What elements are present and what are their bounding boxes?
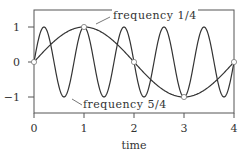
x-tick-label: 3 (181, 122, 188, 135)
x-tick-label: 4 (231, 122, 238, 135)
y-tick-label: 0 (13, 56, 20, 69)
sample-points (31, 24, 236, 99)
chart: 1 0 −1 0 1 2 3 4 time frequency 1/4 freq… (0, 0, 245, 155)
annotation-pointer (96, 17, 110, 24)
x-axis-label: time (122, 139, 147, 152)
sample-point (131, 59, 136, 64)
x-tick-label: 2 (131, 122, 138, 135)
x-tick-label: 0 (31, 122, 38, 135)
sample-point (81, 24, 86, 29)
annotation-frequency-5-4: frequency 5/4 (83, 98, 167, 111)
x-ticks (34, 113, 234, 118)
sample-point (231, 59, 236, 64)
annotation-pointer (72, 99, 82, 105)
y-tick-label: 1 (13, 21, 20, 34)
annotation-frequency-1-4: frequency 1/4 (113, 9, 197, 22)
x-tick-label: 1 (81, 122, 88, 135)
y-tick-label: −1 (4, 91, 20, 104)
sample-point (181, 94, 186, 99)
sample-point (31, 59, 36, 64)
